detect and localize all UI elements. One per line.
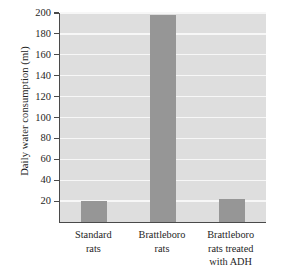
y-axis-tick-label: 140 (9, 70, 51, 81)
y-axis-tick-label: 60 (9, 154, 51, 165)
x-axis-category-label-line: Brattleboro (197, 228, 264, 242)
y-axis-tick-label: 80 (9, 133, 51, 144)
x-axis-category-label-line: rats (60, 242, 127, 256)
bar (81, 201, 107, 222)
bar (150, 15, 176, 222)
bar (219, 199, 245, 222)
x-axis-category-label-line: rats (129, 242, 196, 256)
x-axis-category-label-line: with ADH (197, 255, 264, 269)
x-axis-category-labels: StandardratsBrattlebororatsBrattleborora… (59, 228, 265, 274)
plot-area (59, 13, 266, 223)
gridline (60, 12, 266, 13)
x-axis-category-label: Standardrats (59, 228, 128, 274)
y-axis-tick-label: 120 (9, 91, 51, 102)
y-axis-tick-label: 200 (9, 8, 51, 19)
x-axis-category-label: Brattlebororats treatedwith ADH (196, 228, 265, 274)
y-axis-tick-label: 40 (9, 175, 51, 186)
x-axis-category-label-line: Standard (60, 228, 127, 242)
x-axis-category-label: Brattlebororats (128, 228, 197, 274)
x-axis-category-label-line: Brattleboro (129, 228, 196, 242)
y-axis-tick-label: 160 (9, 50, 51, 61)
y-axis-tick-label: 180 (9, 29, 51, 40)
bar-chart-figure: Daily water consumption (ml) 20018016014… (0, 0, 281, 275)
y-axis-tick-label: 20 (9, 196, 51, 207)
x-axis-category-label-line: rats treated (197, 242, 264, 256)
y-axis-tick-label: 100 (9, 112, 51, 123)
